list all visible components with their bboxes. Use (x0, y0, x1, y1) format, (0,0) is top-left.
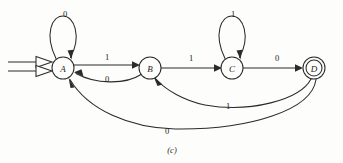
state-diagram-figure: A B C D 0 1 0 1 1 0 1 0 (c) (0, 0, 343, 163)
state-c-label: C (229, 64, 236, 74)
state-diagram-canvas: A B C D 0 1 0 1 1 0 1 0 (c) (0, 0, 343, 163)
transition-c-to-d-arrowhead (295, 64, 303, 72)
state-node-c[interactable]: C (221, 57, 243, 79)
transition-d-to-a (69, 78, 317, 130)
transition-d-to-b-path (155, 78, 311, 107)
transition-d-to-b (154, 77, 312, 108)
transition-c-to-d (243, 64, 303, 72)
edge-label-a-to-b: 1 (105, 52, 109, 62)
edge-label-a-to-a: 0 (63, 9, 67, 19)
edge-label-c-to-c: 1 (231, 9, 235, 19)
transition-a-to-a (50, 16, 76, 60)
edge-label-d-to-a: 0 (165, 126, 169, 136)
state-b-label: B (147, 64, 153, 74)
start-arrow-head-lower (36, 66, 52, 77)
edge-label-d-to-b: 1 (226, 101, 230, 111)
state-node-d-accepting[interactable]: D (303, 57, 325, 79)
transition-a-to-b (74, 61, 140, 69)
state-d-label: D (310, 64, 318, 74)
edge-label-c-to-d: 0 (275, 53, 279, 63)
state-a-label: A (59, 64, 66, 74)
figure-caption: (c) (167, 145, 177, 155)
state-node-b[interactable]: B (139, 57, 161, 79)
edge-label-b-to-c: 1 (189, 53, 193, 63)
transition-d-to-a-path (70, 80, 316, 130)
start-double-arrow (8, 57, 52, 77)
state-node-a[interactable]: A (52, 57, 74, 79)
transition-d-to-a-arrowhead (69, 78, 75, 89)
transition-b-to-c (161, 64, 222, 72)
transition-c-to-c (219, 16, 245, 60)
edge-label-b-to-a: 0 (105, 74, 109, 84)
